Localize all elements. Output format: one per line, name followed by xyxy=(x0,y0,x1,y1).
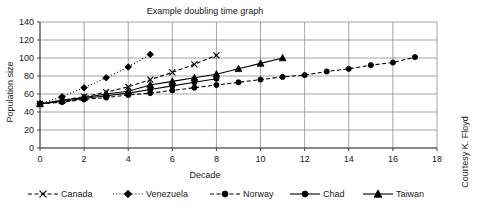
y-tick-labels: 020406080100120140 xyxy=(19,17,34,153)
data-point-marker-circle xyxy=(368,63,373,68)
x-axis-label: Decade xyxy=(189,170,220,180)
y-tick-label: 120 xyxy=(19,35,34,45)
data-point-marker-circle xyxy=(222,191,228,197)
y-tick-label: 140 xyxy=(19,17,34,27)
chart-figure: Example doubling time graph Population s… xyxy=(0,0,483,212)
y-tick-label: 100 xyxy=(19,53,34,63)
data-point-marker-circle xyxy=(324,69,329,74)
chart-legend: CanadaVenezuelaNorwayChadTaiwan xyxy=(28,189,424,199)
x-tick-label: 0 xyxy=(37,154,42,164)
data-point-marker-diamond xyxy=(147,51,154,58)
x-tick-labels: 024681012141618 xyxy=(37,154,442,164)
data-point-marker-circle xyxy=(214,82,219,87)
data-point-marker-circle xyxy=(236,80,241,85)
y-tick-label: 80 xyxy=(24,71,34,81)
data-point-marker-x xyxy=(191,61,197,67)
data-point-marker-circle xyxy=(346,66,351,71)
legend-item-taiwan[interactable]: Taiwan xyxy=(363,189,424,199)
y-tick-label: 60 xyxy=(24,89,34,99)
legend-item-chad[interactable]: Chad xyxy=(290,189,345,199)
x-tick-label: 12 xyxy=(300,154,310,164)
y-tick-label: 0 xyxy=(29,143,34,153)
legend-label: Norway xyxy=(243,189,274,199)
x-tick-label: 4 xyxy=(126,154,131,164)
data-point-marker-circle xyxy=(258,77,263,82)
x-tick-label: 6 xyxy=(170,154,175,164)
data-point-marker-triangle xyxy=(279,54,286,60)
data-point-marker-circle xyxy=(192,85,197,90)
data-point-marker-circle xyxy=(390,60,395,65)
series-line-taiwan xyxy=(40,58,283,104)
y-tick-label: 40 xyxy=(24,107,34,117)
data-point-marker-diamond xyxy=(103,75,110,82)
data-point-marker-circle xyxy=(302,191,308,197)
credit-label: Courtesy K. Floyd xyxy=(460,116,470,188)
y-tick-label: 20 xyxy=(24,125,34,135)
legend-label: Chad xyxy=(323,189,345,199)
data-point-marker-circle xyxy=(280,74,285,79)
data-point-marker-diamond xyxy=(81,84,88,91)
legend-item-venezuela[interactable]: Venezuela xyxy=(113,189,188,199)
x-tick-label: 8 xyxy=(214,154,219,164)
data-point-marker-diamond xyxy=(125,64,132,71)
x-tick-label: 14 xyxy=(344,154,354,164)
x-tick-label: 2 xyxy=(82,154,87,164)
axis-ticks-layer xyxy=(37,22,437,151)
data-point-marker-x xyxy=(40,191,47,198)
legend-item-norway[interactable]: Norway xyxy=(210,189,274,199)
legend-label: Taiwan xyxy=(396,189,424,199)
data-point-marker-circle xyxy=(302,73,307,78)
series-line-venezuela xyxy=(40,54,150,104)
data-series-layer xyxy=(37,51,418,107)
legend-item-canada[interactable]: Canada xyxy=(28,189,93,199)
x-tick-label: 16 xyxy=(388,154,398,164)
series-norway xyxy=(37,55,417,107)
x-tick-label: 18 xyxy=(432,154,442,164)
legend-label: Canada xyxy=(61,189,93,199)
doubling-time-line-chart: Example doubling time graph Population s… xyxy=(0,0,483,212)
y-axis-label: Population size xyxy=(5,61,15,122)
data-point-marker-circle xyxy=(412,55,417,60)
chart-title: Example doubling time graph xyxy=(147,6,264,16)
x-tick-label: 10 xyxy=(256,154,266,164)
legend-label: Venezuela xyxy=(146,189,188,199)
data-point-marker-diamond xyxy=(124,190,132,198)
